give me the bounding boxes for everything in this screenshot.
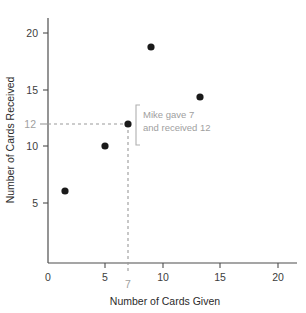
annotation-line-2: and received 12 <box>143 122 211 133</box>
y-tick-label-5: 5 <box>32 197 38 209</box>
y-tick-label-10: 10 <box>26 140 38 152</box>
annotation-bracket <box>136 105 140 145</box>
y-axis-title: Number of Cards Received <box>4 77 16 204</box>
guide-y-label: 12 <box>24 118 36 130</box>
scatter-plot-figure: 20 15 10 5 0 5 10 15 20 12 7 Mike gave 7… <box>0 0 306 313</box>
data-point <box>61 187 68 194</box>
data-point <box>196 93 203 100</box>
x-tick-label-20: 20 <box>272 271 284 283</box>
data-point <box>147 43 154 50</box>
annotation-line-1: Mike gave 7 <box>143 109 194 120</box>
guide-x-label: 7 <box>125 278 131 290</box>
data-point-highlighted <box>124 120 131 127</box>
x-axis-title: Number of Cards Given <box>110 295 220 307</box>
x-tick-label-10: 10 <box>157 271 169 283</box>
y-tick-label-20: 20 <box>26 27 38 39</box>
x-tick-label-15: 15 <box>214 271 226 283</box>
y-tick-label-15: 15 <box>26 84 38 96</box>
chart-canvas: 20 15 10 5 0 5 10 15 20 12 7 Mike gave 7… <box>0 0 306 313</box>
x-tick-label-5: 5 <box>102 271 108 283</box>
data-point <box>101 142 108 149</box>
x-tick-label-0: 0 <box>45 271 51 283</box>
